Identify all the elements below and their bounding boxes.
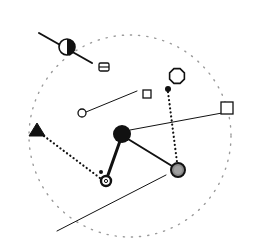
filled-dot-icon — [165, 86, 171, 92]
solid-edge-2 — [130, 113, 222, 130]
filled-dot-icon — [99, 170, 103, 174]
large-square-node — [221, 102, 233, 114]
solid-edge-4 — [128, 139, 172, 166]
open-square-icon — [143, 90, 151, 98]
inner-ring — [104, 179, 107, 182]
gray-node-inner — [174, 166, 182, 174]
small-square-node — [143, 90, 151, 98]
small-dot-node — [165, 86, 171, 92]
nodes — [29, 39, 233, 186]
half-filled-circle-node — [59, 39, 75, 55]
dotted-edge-5 — [44, 136, 100, 178]
tiny-dot-node — [99, 170, 103, 174]
octagon-node — [170, 69, 185, 84]
gray-node-node — [171, 163, 185, 177]
triangle-node — [29, 123, 45, 136]
dotted-edge-6 — [168, 92, 177, 162]
open-square-icon — [221, 102, 233, 114]
triangle-icon — [29, 123, 45, 136]
solid-edge-1 — [86, 91, 137, 112]
small-open-circle-node — [78, 109, 86, 117]
open-circle-icon — [78, 109, 86, 117]
hub-node — [113, 125, 131, 143]
split-square-node — [99, 63, 109, 71]
hub-circle-icon — [113, 125, 131, 143]
solid-edge-3 — [108, 141, 120, 175]
octagon-icon — [170, 69, 185, 84]
ring-node-node — [101, 176, 111, 186]
network-diagram — [0, 0, 255, 248]
